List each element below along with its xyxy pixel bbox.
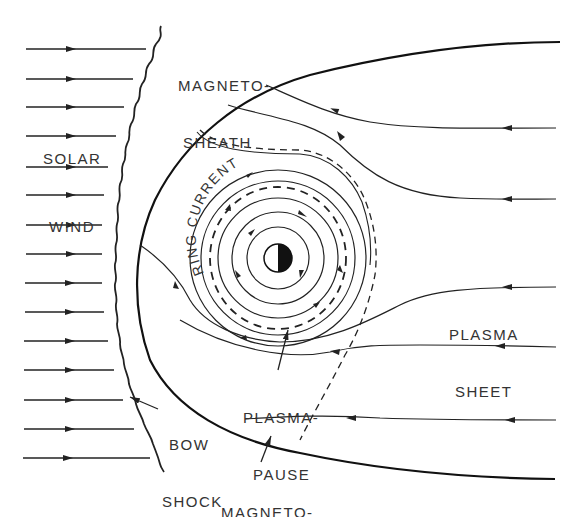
earth: [264, 244, 292, 272]
plasma-sheet-label: PLASMA SHEET: [449, 287, 519, 420]
bow-shock-label-line2: SHOCK: [162, 492, 223, 511]
magnetosheath-label: MAGNETO- SHEATH: [178, 38, 271, 171]
bow-shock-pointer: [130, 397, 158, 409]
magnetopause-label-line1: MAGNETO-: [221, 503, 314, 517]
solar-wind-label-line1: SOLAR: [43, 149, 101, 168]
bow-shock-label: BOW SHOCK: [162, 397, 223, 517]
plasmapause-pointer: [278, 330, 288, 370]
plasma-sheet-label-line1: PLASMA: [449, 325, 519, 344]
plasmapause-label-line1: PLASMA-: [243, 408, 319, 427]
magnetosheath-label-line1: MAGNETO-: [178, 76, 271, 95]
bow-shock-label-line1: BOW: [169, 435, 223, 454]
magnetopause-label: MAGNETO- PAUSE: [221, 465, 314, 517]
solar-wind-label-line2: WIND: [49, 217, 101, 236]
plasma-sheet-label-line2: SHEET: [455, 382, 519, 401]
magnetosheath-label-line2: SHEATH: [183, 133, 271, 152]
solar-wind-label: SOLAR WIND: [43, 111, 101, 255]
